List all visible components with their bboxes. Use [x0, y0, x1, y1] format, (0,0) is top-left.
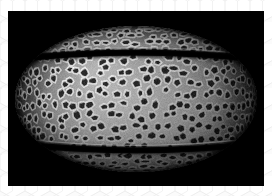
- pollen-grain-image: [8, 11, 264, 186]
- sem-micrograph-plate: [8, 11, 264, 186]
- page-root: pollen grain scanning electron micrograp…: [0, 0, 272, 196]
